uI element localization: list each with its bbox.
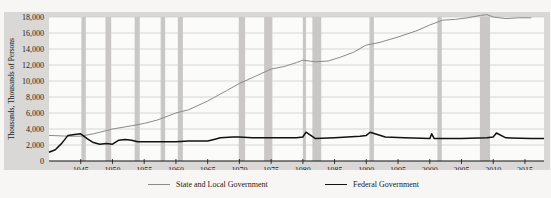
y-tick-label: 8,000 (26, 93, 44, 102)
legend-swatch-federal (325, 184, 347, 185)
recession-bar (437, 17, 441, 161)
x-tick-label: 1965 (200, 166, 216, 170)
legend-label-state-local: State and Local Government (176, 180, 268, 189)
legend-label-federal: Federal Government (353, 180, 419, 189)
y-tick-label: 18,000 (22, 13, 44, 22)
recession-bar (480, 17, 490, 161)
recession-bar (81, 17, 85, 161)
legend-item-federal: Federal Government (325, 180, 419, 189)
y-tick-label: 14,000 (22, 45, 44, 54)
recession-bar (135, 17, 140, 161)
recession-bar (369, 17, 373, 161)
x-tick-label: 2000 (422, 166, 438, 170)
y-tick-label: 16,000 (22, 29, 44, 38)
recession-bar (239, 17, 245, 161)
y-tick-label: 12,000 (22, 61, 44, 70)
legend: State and Local Government Federal Gover… (0, 180, 551, 194)
line-chart: 02,0004,0006,0008,00010,00012,00014,0001… (4, 12, 550, 170)
legend-swatch-state-local (148, 184, 170, 185)
y-axis-title: Thousands, Thousands of Persons (7, 38, 16, 140)
x-tick-label: 1980 (295, 166, 311, 170)
x-tick-label: 1945 (73, 166, 89, 170)
x-tick-label: 1990 (358, 166, 374, 170)
y-tick-label: 6,000 (26, 109, 44, 118)
x-tick-label: 1950 (104, 166, 120, 170)
x-tick-label: 1995 (390, 166, 406, 170)
y-tick-label: 2,000 (26, 141, 44, 150)
y-tick-label: 10,000 (22, 77, 44, 86)
recession-bar (264, 17, 272, 161)
recession-bar (105, 17, 111, 161)
x-tick-label: 2005 (454, 166, 470, 170)
y-tick-label: 4,000 (26, 125, 44, 134)
x-tick-label: 2015 (517, 166, 533, 170)
chart-frame: 02,0004,0006,0008,00010,00012,00014,0001… (4, 12, 550, 170)
recession-bar (312, 17, 321, 161)
x-tick-label: 1970 (231, 166, 247, 170)
y-tick-label: 0 (40, 157, 44, 166)
x-tick-label: 1975 (263, 166, 279, 170)
recession-bar (178, 17, 183, 161)
recession-bar (161, 17, 165, 161)
recession-bar (303, 17, 306, 161)
x-tick-label: 1985 (327, 166, 343, 170)
x-tick-label: 1960 (168, 166, 184, 170)
legend-item-state-local: State and Local Government (148, 180, 268, 189)
x-tick-label: 1955 (136, 166, 152, 170)
x-tick-label: 2010 (485, 166, 501, 170)
